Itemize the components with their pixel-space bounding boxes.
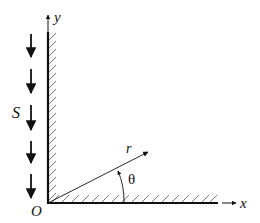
horizontal-wall-hatching: [52, 195, 217, 202]
angle-label: θ: [128, 171, 135, 187]
radius-label: r: [126, 141, 132, 156]
angle-arc: [118, 171, 124, 202]
y-axis-label: y: [52, 9, 61, 25]
flow-label: S: [12, 104, 20, 121]
wedge-diagram: y: [0, 0, 260, 223]
origin-label: O: [31, 203, 42, 219]
x-axis-label: x: [239, 195, 247, 211]
vertical-wall-hatching: [49, 33, 56, 200]
